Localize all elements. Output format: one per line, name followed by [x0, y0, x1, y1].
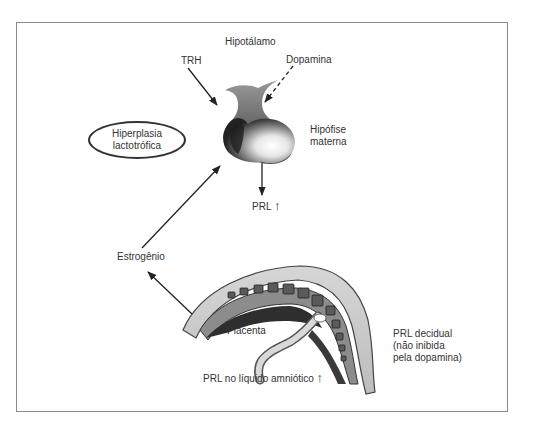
decidual-line1: PRL decidual — [393, 328, 462, 340]
dopamine-label: Dopamina — [286, 54, 332, 66]
up-arrow-icon: ↑ — [274, 198, 281, 213]
decidual-prl-label: PRL decidual (não inibida pela dopamina) — [393, 328, 462, 364]
estrogen-to-pituitary-arrow — [142, 166, 220, 248]
decidual-line2: (não inibida — [393, 340, 462, 352]
decidual-line3: pela dopamina) — [393, 352, 462, 364]
placenta-label: Placenta — [227, 325, 266, 337]
estrogen-label: Estrogênio — [117, 251, 165, 263]
trh-label: TRH — [181, 55, 202, 67]
pituitary-gland-icon — [223, 80, 295, 164]
pituitary-label: Hipófise materna — [310, 124, 347, 148]
hyperplasia-ellipse: Hiperplasia lactotrófica — [88, 121, 186, 159]
prl-text: PRL — [252, 201, 271, 212]
up-arrow-icon: ↑ — [317, 370, 324, 385]
hypothalamus-label: Hipotálamo — [225, 36, 276, 48]
amniotic-text: PRL no líquido amniótico — [203, 373, 314, 384]
pituitary-label-line1: Hipófise — [310, 124, 347, 136]
amniotic-prl-label: PRL no líquido amniótico ↑ — [203, 372, 323, 385]
hyperplasia-label-line1: Hiperplasia — [112, 128, 162, 140]
placenta-to-estrogen-arrow — [148, 272, 192, 314]
hyperplasia-label-line2: lactotrófica — [113, 140, 161, 152]
trh-arrow — [188, 68, 217, 105]
pituitary-label-line2: materna — [310, 136, 347, 148]
prl-label: PRL ↑ — [252, 200, 280, 213]
